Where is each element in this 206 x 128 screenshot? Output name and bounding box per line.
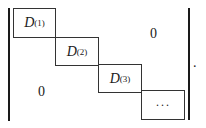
ellipsis: ··· — [156, 98, 171, 113]
block-superscript: (3) — [120, 74, 131, 84]
right-determinant-bar — [188, 8, 190, 120]
block-symbol: D — [110, 71, 120, 87]
left-determinant-bar — [8, 8, 10, 121]
upper-right-zero: 0 — [150, 26, 157, 42]
block-superscript: (1) — [34, 18, 45, 28]
block-symbol: D — [24, 15, 34, 31]
trailing-period: . — [193, 55, 197, 71]
diagonal-block-2: D(2) — [55, 37, 99, 66]
block-superscript: (2) — [77, 47, 88, 57]
diagonal-block-1: D(1) — [13, 8, 56, 38]
lower-left-zero: 0 — [38, 84, 45, 100]
diagonal-block-3: D(3) — [98, 64, 142, 93]
diagonal-block-4: ··· — [141, 90, 185, 120]
block-symbol: D — [67, 44, 77, 60]
